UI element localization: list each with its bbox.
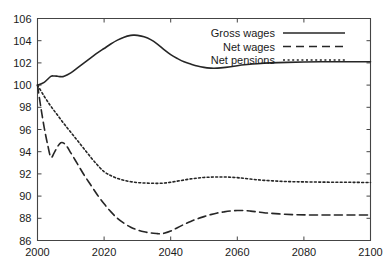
y-tick-label: 104	[13, 35, 31, 47]
line-chart: 86889092949698100102104106 2000202020402…	[0, 0, 383, 273]
y-tick-label: 100	[13, 79, 31, 91]
x-tick-label: 2060	[225, 246, 249, 258]
legend-label-net-pensions: Net pensions	[211, 54, 276, 66]
x-axis-ticks: 200020202040206020802100	[25, 19, 382, 258]
x-tick-label: 2080	[292, 246, 316, 258]
series-group	[38, 35, 371, 234]
series-net-wages	[38, 85, 371, 234]
series-net-pensions	[38, 85, 371, 183]
plot-border	[38, 19, 371, 241]
y-tick-label: 88	[19, 212, 31, 224]
y-tick-label: 98	[19, 101, 31, 113]
x-tick-label: 2040	[158, 246, 182, 258]
y-axis-ticks: 86889092949698100102104106	[13, 13, 370, 247]
legend-label-net-wages: Net wages	[223, 41, 275, 53]
y-tick-label: 94	[19, 146, 31, 158]
chart-container: 86889092949698100102104106 2000202020402…	[0, 0, 383, 273]
x-tick-label: 2000	[25, 246, 49, 258]
y-tick-label: 92	[19, 168, 31, 180]
y-tick-label: 90	[19, 190, 31, 202]
x-tick-label: 2020	[92, 246, 116, 258]
legend-label-gross-wages: Gross wages	[211, 27, 276, 39]
x-tick-label: 2100	[358, 246, 382, 258]
y-tick-label: 106	[13, 13, 31, 25]
y-tick-label: 96	[19, 124, 31, 136]
y-tick-label: 102	[13, 57, 31, 69]
axis-frame	[38, 19, 371, 241]
chart-legend: Gross wagesNet wagesNet pensions	[211, 27, 345, 66]
